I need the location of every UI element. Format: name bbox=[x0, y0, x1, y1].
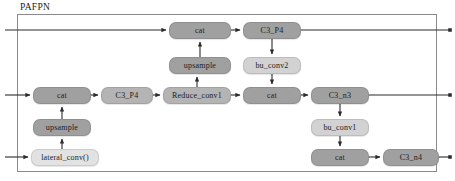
node-upsample-low[interactable]: upsample bbox=[33, 119, 91, 136]
node-c3-p4-top[interactable]: C3_P4 bbox=[243, 22, 301, 39]
node-cat-mid-right[interactable]: cat bbox=[243, 87, 301, 104]
node-cat-mid-left[interactable]: cat bbox=[33, 87, 91, 104]
node-c3-p4-mid[interactable]: C3_P4 bbox=[101, 87, 153, 104]
diagram-canvas: PAFPN bbox=[0, 0, 455, 181]
node-lateral-conv0[interactable]: lateral_conv() bbox=[31, 149, 99, 166]
node-bu-conv1[interactable]: bu_conv1 bbox=[311, 119, 369, 136]
node-upsample-top[interactable]: upsample bbox=[169, 57, 231, 74]
node-reduce-conv1[interactable]: Reduce_conv1 bbox=[163, 87, 231, 104]
node-c3-n4[interactable]: C3_n4 bbox=[383, 149, 439, 166]
node-cat-top[interactable]: cat bbox=[169, 22, 231, 39]
node-c3-n3[interactable]: C3_n3 bbox=[311, 87, 369, 104]
node-bu-conv2[interactable]: bu_conv2 bbox=[243, 57, 301, 74]
node-cat-bottom[interactable]: cat bbox=[311, 149, 369, 166]
